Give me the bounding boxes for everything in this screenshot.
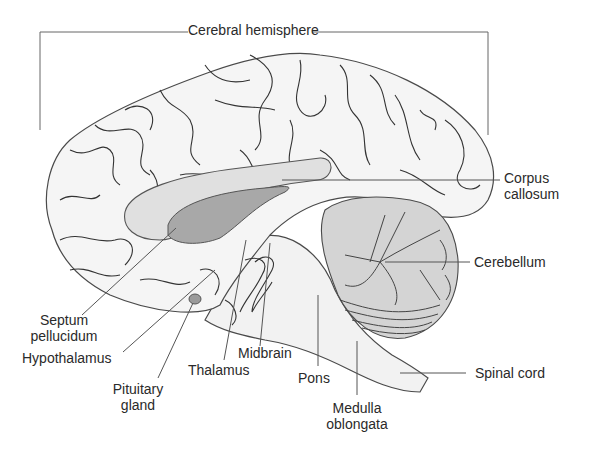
pituitary-gland bbox=[189, 294, 201, 304]
label-thalamus: Thalamus bbox=[188, 362, 249, 378]
label-medulla-oblongata: Medulla oblongata bbox=[320, 400, 394, 432]
label-spinal-cord: Spinal cord bbox=[475, 365, 545, 381]
label-septum-pellucidum: Septum pellucidum bbox=[28, 312, 100, 344]
label-midbrain: Midbrain bbox=[238, 345, 292, 361]
label-cerebellum: Cerebellum bbox=[474, 254, 546, 270]
label-pituitary-gland: Pituitary gland bbox=[108, 381, 168, 413]
brain-illustration bbox=[0, 0, 591, 452]
brain-sagittal-diagram: Cerebral hemisphere Corpus callosum Cere… bbox=[0, 0, 591, 452]
label-pons: Pons bbox=[298, 370, 330, 386]
label-corpus-callosum: Corpus callosum bbox=[504, 170, 559, 202]
label-cerebral-hemisphere: Cerebral hemisphere bbox=[188, 22, 312, 38]
label-hypothalamus: Hypothalamus bbox=[22, 350, 112, 366]
